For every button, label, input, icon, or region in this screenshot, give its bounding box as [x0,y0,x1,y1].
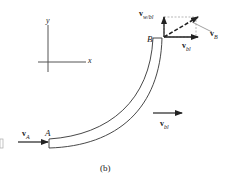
point-B-label: B [147,35,153,44]
y-axis-label: y [46,17,50,25]
curved-pipe [49,38,162,148]
vbl-top-label: vbl [182,42,191,52]
figure-caption: (b) [100,164,111,173]
vwbl-label: vw/bl [139,10,153,20]
vB-label: vB [210,30,218,40]
vbl-right-label: vbl [160,120,169,130]
velocity-triangle [164,17,212,37]
vA-label: vA [22,130,30,140]
point-A-label: A [45,129,51,138]
coordinate-axes [38,25,86,72]
x-axis-label: x [88,57,92,65]
left-edge-fragment [0,139,3,148]
diagram-canvas [0,0,236,182]
